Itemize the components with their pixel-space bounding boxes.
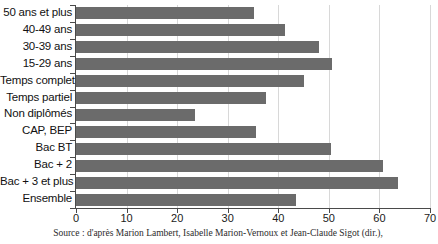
category-label: CAP, BEP xyxy=(0,124,72,136)
category-label: Non diplômés xyxy=(0,107,72,119)
category-label: Bac + 3 et plus xyxy=(0,175,72,187)
x-axis-tick-label: 20 xyxy=(171,212,183,224)
plot-area xyxy=(76,5,430,208)
bar xyxy=(76,160,383,172)
bar xyxy=(76,75,304,87)
bar xyxy=(76,126,256,138)
bar xyxy=(76,177,398,189)
category-label: 30-39 ans xyxy=(0,40,72,52)
bar xyxy=(76,143,331,155)
category-label: Bac BT xyxy=(0,141,72,153)
bar-chart: 50 ans et plus40-49 ans30-39 ans15-29 an… xyxy=(0,0,438,244)
x-axis-tick-label: 30 xyxy=(222,212,234,224)
x-axis-tick-label: 50 xyxy=(323,212,335,224)
category-label: Bac + 2 xyxy=(0,158,72,170)
gridline xyxy=(430,5,431,208)
bar xyxy=(76,109,195,121)
x-axis-tick-label: 70 xyxy=(424,212,436,224)
bar xyxy=(76,92,266,104)
bar xyxy=(76,194,296,206)
x-axis-line xyxy=(75,208,431,209)
category-label: 15-29 ans xyxy=(0,57,72,69)
category-label: 40-49 ans xyxy=(0,23,72,35)
category-label: Ensemble xyxy=(0,192,72,204)
x-axis-tick-label: 10 xyxy=(120,212,132,224)
bar xyxy=(76,24,285,36)
x-axis-tick-label: 60 xyxy=(373,212,385,224)
source-note: Source : d'après Marion Lambert, Isabell… xyxy=(0,228,436,238)
category-label: 50 ans et plus xyxy=(0,6,72,18)
category-label: Temps partiel xyxy=(0,91,72,103)
category-label: Temps complet xyxy=(0,74,72,86)
bar xyxy=(76,58,332,70)
x-axis-tick-label: 0 xyxy=(73,212,79,224)
bar xyxy=(76,41,319,53)
x-axis-tick-label: 40 xyxy=(272,212,284,224)
bar xyxy=(76,7,254,19)
